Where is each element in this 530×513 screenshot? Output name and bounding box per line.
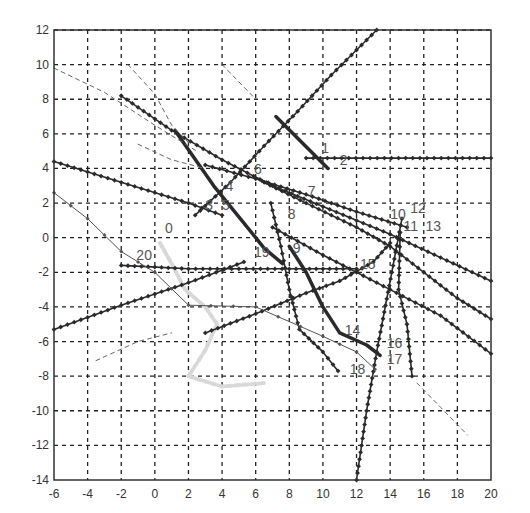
- data-point-marker: [409, 366, 414, 371]
- y-tick-label: 2: [42, 196, 49, 210]
- y-tick-label: 10: [36, 58, 50, 72]
- data-point-marker: [58, 161, 63, 166]
- data-point-marker: [152, 265, 157, 270]
- data-point-marker: [276, 315, 280, 319]
- x-tick-label: -2: [116, 487, 127, 501]
- data-point-marker: [324, 283, 329, 288]
- data-point-marker: [388, 232, 393, 237]
- data-point-marker: [396, 280, 401, 285]
- data-point-marker: [72, 165, 77, 170]
- data-point-marker: [193, 266, 198, 271]
- data-point-marker: [99, 174, 104, 179]
- data-point-marker: [407, 352, 412, 357]
- data-point-marker: [304, 291, 309, 296]
- x-tick-label: -4: [82, 487, 93, 501]
- data-point-marker: [387, 283, 392, 288]
- data-point-marker: [72, 320, 77, 325]
- data-point-marker: [203, 330, 208, 335]
- series-23: [417, 383, 468, 435]
- data-point-marker: [208, 266, 213, 271]
- data-point-marker: [451, 261, 456, 266]
- data-point-marker: [384, 296, 389, 301]
- data-point-marker: [268, 201, 273, 206]
- data-point-marker: [331, 281, 336, 286]
- x-tick-label: 14: [383, 487, 397, 501]
- data-point-marker: [342, 205, 347, 210]
- data-point-marker: [334, 266, 339, 271]
- data-point-marker: [321, 204, 326, 209]
- data-point-marker: [321, 334, 325, 338]
- data-point-marker: [251, 266, 256, 271]
- data-point-marker: [152, 292, 157, 297]
- data-point-marker: [439, 156, 444, 161]
- data-point-marker: [348, 207, 353, 212]
- data-point-marker: [232, 171, 237, 176]
- series-8: [268, 201, 340, 374]
- data-point-marker: [258, 266, 263, 271]
- data-point-marker: [294, 266, 299, 271]
- data-point-marker: [234, 319, 239, 324]
- data-point-marker: [341, 212, 346, 217]
- data-point-marker: [166, 265, 171, 270]
- data-point-marker: [432, 252, 437, 257]
- data-point-marker: [382, 156, 387, 161]
- y-tick-label: 6: [42, 127, 49, 141]
- data-point-marker: [126, 301, 131, 306]
- data-point-marker: [405, 329, 410, 334]
- series-11: [270, 225, 493, 356]
- data-point-marker: [119, 263, 124, 268]
- data-point-marker: [236, 266, 241, 271]
- data-point-marker: [376, 343, 381, 348]
- data-point-marker: [397, 259, 402, 264]
- data-point-marker: [365, 402, 370, 407]
- data-point-marker: [105, 308, 110, 313]
- y-axis-ticks: -14-12-10-8-6-4-2024681012: [32, 23, 50, 487]
- track-label: 18: [350, 361, 366, 377]
- data-point-marker: [287, 287, 292, 292]
- data-point-marker: [347, 215, 352, 220]
- data-point-marker: [193, 278, 198, 283]
- data-point-marker: [297, 190, 302, 195]
- data-point-marker: [446, 156, 451, 161]
- data-point-marker: [353, 156, 358, 161]
- data-point-marker: [272, 304, 277, 309]
- data-point-marker: [368, 224, 373, 229]
- data-point-marker: [166, 194, 171, 199]
- data-point-marker: [417, 156, 422, 161]
- data-point-marker: [290, 300, 295, 305]
- data-point-marker: [392, 256, 397, 261]
- data-point-marker: [392, 221, 397, 226]
- data-point-marker: [444, 258, 449, 263]
- track-label: 2: [340, 152, 348, 168]
- data-point-marker: [246, 174, 251, 179]
- data-point-marker: [297, 293, 302, 298]
- data-point-marker: [338, 342, 342, 346]
- data-point-marker: [381, 229, 386, 234]
- data-point-marker: [432, 156, 437, 161]
- track-label: 6: [254, 161, 262, 177]
- track-label: 8: [288, 206, 296, 222]
- data-point-marker: [253, 311, 258, 316]
- data-point-marker: [273, 266, 278, 271]
- data-point-marker: [139, 186, 144, 191]
- data-point-marker: [467, 156, 472, 161]
- data-point-marker: [410, 374, 415, 379]
- data-point-marker: [266, 306, 271, 311]
- data-point-marker: [200, 275, 205, 280]
- data-point-marker: [381, 316, 386, 321]
- data-point-marker: [314, 202, 319, 207]
- y-tick-label: 0: [42, 231, 49, 245]
- data-point-marker: [406, 337, 411, 342]
- data-point-marker: [463, 267, 468, 272]
- data-point-marker: [317, 286, 322, 291]
- data-point-marker: [355, 471, 360, 476]
- data-point-marker: [247, 314, 252, 319]
- x-tick-label: 10: [316, 487, 330, 501]
- data-point-marker: [126, 263, 131, 268]
- data-point-marker: [272, 215, 277, 220]
- data-point-marker: [152, 190, 157, 195]
- data-point-marker: [354, 209, 359, 214]
- data-point-marker: [65, 163, 70, 168]
- track-label: 0: [165, 220, 173, 236]
- data-point-marker: [265, 266, 270, 271]
